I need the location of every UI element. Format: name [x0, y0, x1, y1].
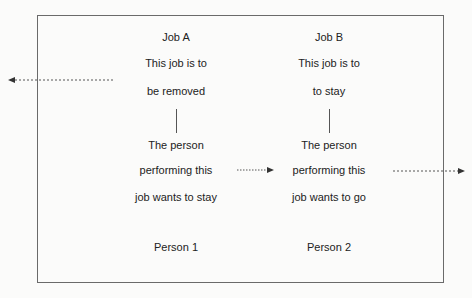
arrowhead-right-icon	[267, 167, 274, 173]
person-2-out-arrow	[393, 168, 465, 174]
arrowhead-left-icon	[8, 77, 15, 83]
person-1-to-job-b-arrow	[237, 167, 274, 173]
arrowhead-right-icon	[458, 168, 465, 174]
job-a-out-arrow	[8, 77, 113, 83]
arrows-layer	[0, 0, 472, 298]
